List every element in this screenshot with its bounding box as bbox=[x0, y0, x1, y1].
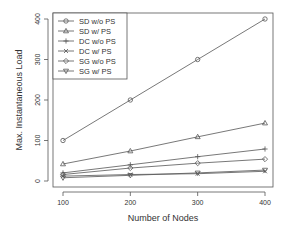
x-axis: 100200300400 bbox=[57, 192, 271, 206]
x-tick-label: 400 bbox=[259, 199, 271, 206]
y-tick-label: 100 bbox=[34, 135, 41, 147]
y-tick-label: 400 bbox=[34, 13, 41, 25]
legend: SD w/o PSSD w/ PSDC w/o PSDC w/ PSSG w/o… bbox=[53, 13, 127, 79]
legend-label: SG w/ PS bbox=[79, 67, 112, 76]
legend-label: DC w/ PS bbox=[79, 47, 112, 56]
x-tick-label: 100 bbox=[57, 199, 69, 206]
plus-marker-icon bbox=[262, 146, 267, 151]
x-tick-label: 300 bbox=[192, 199, 204, 206]
y-tick-label: 200 bbox=[34, 94, 41, 106]
series-sg-w-ps bbox=[61, 168, 268, 180]
plus-marker-icon bbox=[128, 162, 133, 167]
triangle-marker-icon bbox=[263, 120, 268, 124]
x-axis-label: Number of Nodes bbox=[128, 213, 199, 223]
y-axis-label: Max. Instantaneous Load bbox=[14, 49, 24, 150]
legend-label: SD w/o PS bbox=[79, 17, 115, 26]
y-tick-label: 300 bbox=[34, 54, 41, 66]
y-tick-label: 0 bbox=[34, 179, 41, 183]
series-sd-w-ps bbox=[61, 120, 268, 165]
legend-label: SG w/o PS bbox=[79, 57, 116, 66]
legend-label: SD w/ PS bbox=[79, 27, 111, 36]
legend-label: DC w/o PS bbox=[79, 37, 116, 46]
line-chart: 0100200300400 100200300400 Max. Instanta… bbox=[0, 0, 289, 233]
plus-marker-icon bbox=[195, 154, 200, 159]
y-axis: 0100200300400 bbox=[34, 13, 48, 183]
x-tick-label: 200 bbox=[124, 199, 136, 206]
